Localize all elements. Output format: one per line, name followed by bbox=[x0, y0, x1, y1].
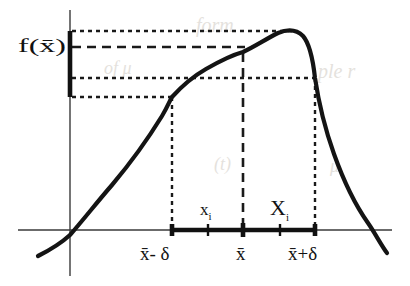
diagram-canvas: form ple r of μ (t) μ bbox=[0, 0, 410, 286]
label-X-i-base: X bbox=[270, 195, 286, 220]
label-f-xbar: f(x̄) bbox=[18, 35, 66, 57]
ghost-text-line1: form bbox=[196, 14, 234, 37]
label-xbar-plus-delta: x̄+δ bbox=[288, 243, 317, 264]
function-diagram: form ple r of μ (t) μ bbox=[0, 0, 410, 286]
label-x-i-subscript: i bbox=[209, 210, 212, 222]
ghost-text-line3: of μ bbox=[104, 58, 132, 78]
ghost-text-line4: (t) bbox=[214, 154, 231, 175]
label-xbar: x̄ bbox=[236, 243, 246, 264]
ghost-text-line2: ple r bbox=[316, 60, 355, 83]
label-X-i-subscript: i bbox=[286, 211, 289, 223]
label-xbar-minus-delta: x̄- δ bbox=[140, 243, 170, 264]
